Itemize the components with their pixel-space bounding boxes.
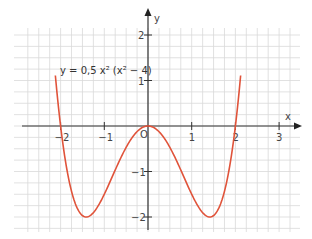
x-tick-label: 1	[189, 132, 195, 143]
x-axis-label: x	[285, 111, 291, 122]
function-label: y = 0,5 x² (x² − 4)	[60, 65, 152, 76]
y-tick-label: 2	[138, 30, 144, 41]
x-axis-arrow-icon	[294, 123, 302, 130]
x-tick-label: 3	[276, 132, 282, 143]
y-axis-arrow-icon	[145, 8, 152, 16]
function-plot: x y −2−1O123−2−112 y = 0,5 x² (x² − 4)	[0, 0, 312, 239]
y-tick-label: −1	[131, 167, 146, 178]
y-axis-label: y	[154, 13, 160, 24]
y-tick-label: 1	[138, 76, 144, 87]
axes: x y	[22, 8, 302, 230]
x-tick-label: −1	[98, 132, 113, 143]
origin-label: O	[140, 129, 148, 140]
y-tick-label: −2	[131, 212, 146, 223]
